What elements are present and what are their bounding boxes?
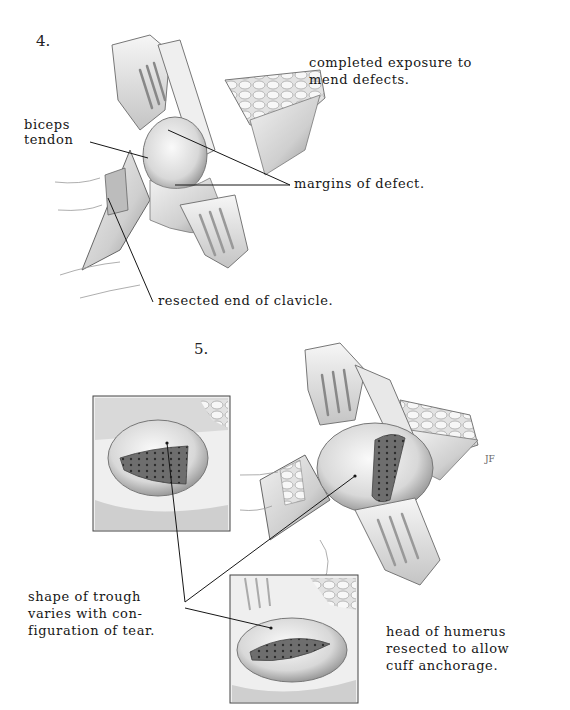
figure-4-caption-line2: mend defects. [309,71,409,88]
figure-4-number: 4. [36,32,50,50]
figure-4-caption-line1: completed exposure to [309,54,472,71]
label-humerus-line2: resected to allow [386,640,509,657]
inset-lower [230,575,358,703]
figure-4-drawing [55,35,325,298]
resected-clavicle [105,168,128,215]
label-trough-line3: figuration of tear. [28,622,155,639]
inset-upper [93,396,230,531]
artist-signature: JF [485,451,495,468]
label-biceps-line2: tendon [24,131,73,148]
figure-5-number: 5. [194,340,208,358]
figure-5-main-drawing [240,343,478,585]
label-trough-line2: varies with con- [28,605,142,622]
label-humerus-line3: cuff anchorage. [386,657,498,674]
label-trough-line1: shape of trough [28,588,141,605]
label-margins-of-defect: margins of defect. [294,175,425,192]
leader-biceps-tendon [90,142,148,158]
label-humerus-line1: head of humerus [386,623,506,640]
label-resected-clavicle: resected end of clavicle. [158,292,333,309]
